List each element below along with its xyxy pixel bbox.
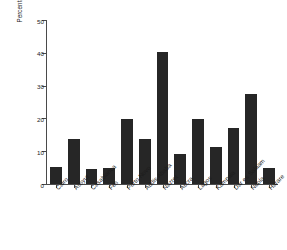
ari-bar-chart-figure: Percentage of children with ARI (%) 0102… (0, 0, 287, 250)
y-tick-label: 40 (37, 50, 44, 57)
y-tick-label: 30 (37, 83, 44, 90)
y-tick-label: 10 (37, 148, 44, 155)
bar (192, 119, 204, 184)
y-tick-label: 0 (41, 181, 44, 188)
bar (68, 139, 80, 184)
x-axis-tick-labels: CairoAssyutCasablancaFesPorto NovoAddis … (46, 186, 286, 250)
y-tick-label: 20 (37, 115, 44, 122)
y-tick-0: 0 (46, 184, 47, 185)
y-axis-title: Percentage of children with ARI (%) (14, 0, 26, 42)
plot-area: 01020304050 (46, 20, 278, 185)
bar (121, 119, 133, 184)
y-tick-label: 50 (37, 17, 44, 24)
bar-series (47, 20, 278, 184)
